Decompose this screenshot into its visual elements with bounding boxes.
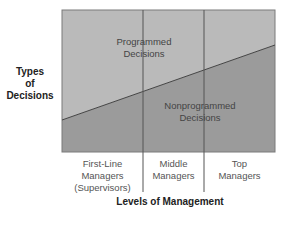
cat1-line-2: Managers: [62, 170, 143, 182]
nonprogrammed-decisions-label: Nonprogrammed Decisions: [150, 100, 250, 124]
programmed-line-1: Programmed: [100, 36, 188, 48]
category-first-line: First-Line Managers (Supervisors): [62, 158, 143, 194]
y-label-line-2: of: [2, 78, 58, 90]
category-middle: Middle Managers: [143, 158, 204, 182]
x-axis-label: Levels of Management: [0, 196, 282, 207]
cat2-line-1: Middle: [143, 158, 204, 170]
cat1-line-3: (Supervisors): [62, 182, 143, 194]
nonprogrammed-line-2: Decisions: [150, 112, 250, 124]
cat1-line-1: First-Line: [62, 158, 143, 170]
programmed-line-2: Decisions: [100, 48, 188, 60]
y-label-line-3: Decisions: [2, 90, 58, 102]
y-label-line-1: Types: [2, 66, 58, 78]
y-axis-label: Types of Decisions: [2, 66, 58, 102]
cat3-line-2: Managers: [204, 170, 275, 182]
category-top: Top Managers: [204, 158, 275, 182]
cat3-line-1: Top: [204, 158, 275, 170]
cat2-line-2: Managers: [143, 170, 204, 182]
programmed-decisions-label: Programmed Decisions: [100, 36, 188, 60]
nonprogrammed-line-1: Nonprogrammed: [150, 100, 250, 112]
